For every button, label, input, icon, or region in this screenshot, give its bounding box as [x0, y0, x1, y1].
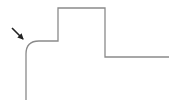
stepped-rounded-path [26, 8, 169, 100]
pointer-arrow-icon [12, 28, 23, 39]
diagram-canvas [0, 0, 181, 112]
